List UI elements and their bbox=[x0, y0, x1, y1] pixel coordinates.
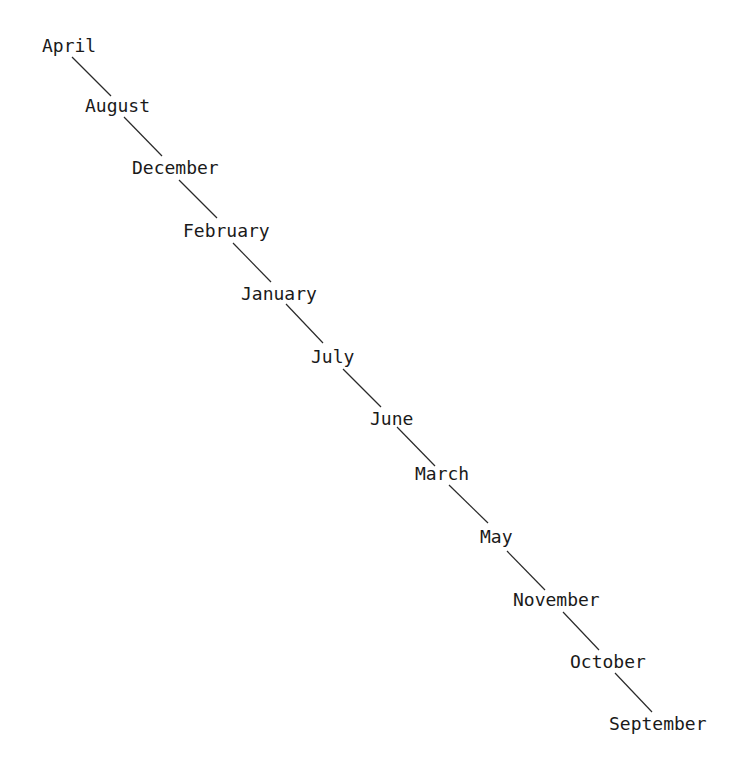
node-october: October bbox=[570, 651, 646, 672]
node-april: April bbox=[42, 35, 96, 56]
node-february: February bbox=[183, 220, 270, 241]
node-november: November bbox=[513, 589, 600, 610]
node-december: December bbox=[132, 157, 219, 178]
node-january: January bbox=[241, 283, 317, 304]
month-chain-diagram: April August December February January J… bbox=[0, 0, 748, 773]
node-september: September bbox=[609, 713, 707, 734]
node-august: August bbox=[85, 95, 150, 116]
node-may: May bbox=[480, 526, 513, 547]
node-june: June bbox=[370, 408, 413, 429]
node-march: March bbox=[415, 463, 469, 484]
node-july: July bbox=[311, 346, 355, 367]
